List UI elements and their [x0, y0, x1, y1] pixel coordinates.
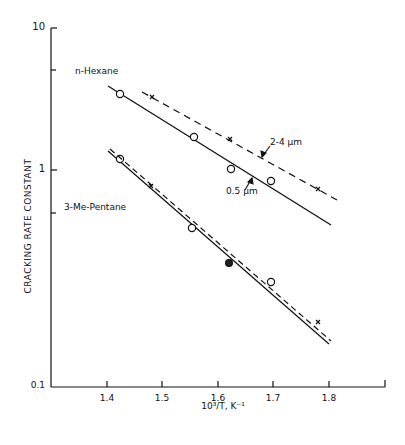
- x-tick-1-4: 1.4: [92, 393, 122, 403]
- label-n-hexane: n-Hexane: [75, 66, 118, 76]
- y-tick-10: 10: [15, 21, 45, 32]
- annotation-arrows: [245, 146, 270, 190]
- y-axis-title: CRACKING RATE CONSTANT: [23, 151, 33, 301]
- label-0-5-um: 0.5 µm: [226, 186, 258, 196]
- label-2-4-um: 2-4 µm: [270, 137, 302, 147]
- x-tick-1-8: 1.8: [314, 393, 344, 403]
- series-hexane-large: [142, 92, 337, 200]
- series-hexane-small: [108, 86, 331, 225]
- series-pentane-small: [108, 151, 329, 344]
- x-axis-title: 10³/T, K⁻¹: [168, 401, 278, 411]
- label-3-me-pentane: 3-Me-Pentane: [64, 202, 126, 212]
- y-tick-0-1: 0.1: [15, 380, 45, 390]
- series-pentane-large: [110, 149, 331, 341]
- chart-plot: [0, 0, 405, 445]
